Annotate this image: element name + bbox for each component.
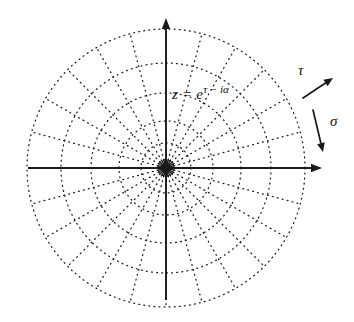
grid-spoke-20: [168, 171, 236, 289]
grid-spoke-22: [169, 170, 287, 238]
direction-arrows-group: [303, 78, 333, 152]
horizontal-axis-arrowhead: [311, 164, 322, 172]
vertical-axis-arrowhead: [162, 18, 170, 29]
grid-spoke-10: [46, 99, 164, 167]
grid-spoke-14: [46, 170, 164, 238]
grid-spoke-19: [167, 171, 202, 302]
formula-label: z = eτ − iα: [172, 83, 229, 103]
grid-spoke-4: [168, 48, 236, 166]
grid-spoke-8: [97, 48, 165, 166]
grid-spoke-9: [68, 70, 164, 166]
grid-spoke-11: [32, 132, 163, 167]
tau-direction-arrow-shaft: [303, 83, 326, 98]
grid-spoke-2: [169, 99, 287, 167]
sigma-label: σ: [330, 113, 337, 130]
grid-spoke-15: [68, 170, 164, 266]
formula-exponent: τ − iα: [203, 83, 229, 95]
tau-label: τ: [298, 62, 303, 79]
polar-grid-canvas: [0, 0, 354, 322]
sigma-direction-arrowhead: [317, 142, 325, 152]
origin-marker: [157, 159, 175, 177]
origin-dot: [163, 165, 169, 171]
tau-direction-arrowhead: [323, 78, 333, 86]
grid-spoke-21: [168, 170, 264, 266]
conformal-map-figure: z = eτ − iα τ σ: [0, 0, 354, 322]
formula-base: z = e: [172, 86, 203, 102]
sigma-direction-arrow-shaft: [313, 110, 321, 143]
grid-spoke-16: [97, 171, 165, 289]
